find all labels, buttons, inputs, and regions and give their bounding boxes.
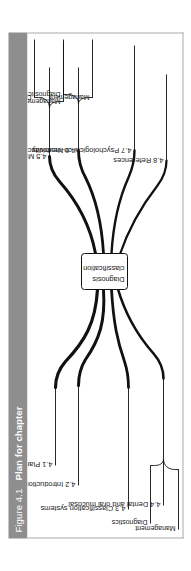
branch-label-4-7: 4.7 Psychological co-morbidity <box>31 146 131 155</box>
branch-label-4-4: 4.4 Dental and oral mucosal <box>68 500 160 509</box>
twig-4-4-diagnostics <box>150 460 163 466</box>
figure-content-frame: Diagnosis classification 4.1 Plan 4.2 In… <box>27 33 183 539</box>
branch-stroke-4-8 <box>119 161 166 256</box>
branch-stroke-4-5 <box>49 157 95 254</box>
mind-map-diagram: Diagnosis classification 4.1 Plan 4.2 In… <box>27 34 181 538</box>
figure-caption: Plan for chapter <box>12 407 23 481</box>
rotated-figure-container: Figure 4.1 Plan for chapter <box>8 33 183 539</box>
center-node-line2: classification <box>83 264 124 273</box>
branch-label-4-2: 4.2 Introduction <box>27 480 75 489</box>
sub-label-4-6-management: Management <box>49 93 89 101</box>
branch-label-4-1: 4.1 Plan <box>27 460 52 469</box>
sub-label-4-4-diagnostics: Diagnostics <box>111 518 147 526</box>
branch-stroke-4-1 <box>55 290 97 388</box>
branch-label-4-8: 4.8 References <box>113 156 163 165</box>
center-node-line1: Diagnosis <box>92 275 124 284</box>
figure-page: Figure 4.1 Plan for chapter <box>0 0 191 571</box>
branch-stroke-4-2 <box>78 290 103 386</box>
center-node: Diagnosis classification <box>81 254 127 290</box>
branch-stroke-4-3 <box>111 290 128 388</box>
figure-number: Figure 4.1 <box>12 489 23 533</box>
branch-stroke-4-7 <box>111 151 134 254</box>
figure-title-bar: Figure 4.1 Plan for chapter <box>8 33 27 539</box>
twig-4-4-management <box>163 460 178 470</box>
branch-stroke-4-4 <box>117 288 163 379</box>
sub-label-4-4-management: Management <box>135 524 175 532</box>
